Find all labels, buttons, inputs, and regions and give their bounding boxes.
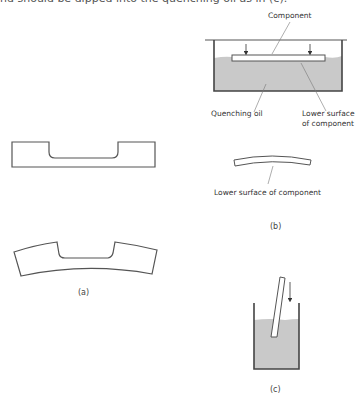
figure-b-bent-component (234, 156, 311, 184)
label-lower-surface-1: Lower surface (302, 109, 355, 118)
figure-b-quench-tank (205, 22, 347, 112)
figure-c-beaker (254, 277, 299, 369)
figure-b-caption: (b) (270, 222, 281, 231)
figure-a-caption: (a) (78, 288, 89, 297)
figure-a-flat-component (12, 142, 155, 167)
quenching-diagram: (a) Component Quenching oil Lower surfac… (0, 0, 362, 403)
figure-a-bent-component (14, 242, 157, 276)
figure-c-caption: (c) (270, 385, 281, 394)
label-quenching-oil: Quenching oil (211, 109, 263, 118)
label-lower-surface-2: of component (302, 119, 354, 128)
label-component: Component (268, 11, 312, 20)
label-lower-surface-bent: Lower surface of component (214, 188, 321, 197)
